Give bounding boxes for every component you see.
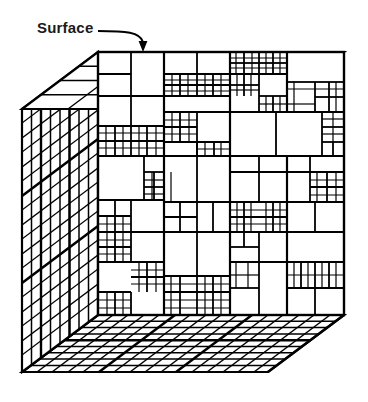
surface-leader-arrow <box>98 31 147 52</box>
front-face <box>98 52 344 315</box>
cube-diagram-svg <box>0 0 368 402</box>
surface-label: Surface <box>37 19 93 36</box>
octree-cube-figure: Surface <box>0 0 368 402</box>
